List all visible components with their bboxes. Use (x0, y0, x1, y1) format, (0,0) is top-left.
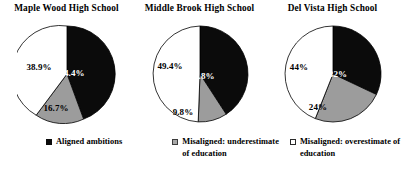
pie-value-overestimate: 49.4% (157, 61, 182, 71)
pie-chart-middle-brook: 40.8% 9.8% 49.4% (133, 24, 266, 126)
pie-panel-middle-brook: Middle Brook High School 40.8% 9.8% 49.4… (133, 0, 266, 132)
pie-panel-maple-wood: Maple Wood High School 44.4% 16.7% 38.9% (0, 0, 133, 132)
panel-title: Del Vista High School (266, 3, 399, 14)
legend-swatch-black-icon (46, 139, 52, 145)
pie-panel-del-vista: Del Vista High School 32% 24% 44% (266, 0, 399, 132)
pie-value-aligned: 44.4% (59, 68, 84, 78)
legend-item-label: Misaligned: overestimate of education (300, 136, 404, 159)
legend-swatch-white-icon (290, 139, 296, 145)
pie-chart-maple-wood: 44.4% 16.7% 38.9% (0, 24, 133, 126)
pie-value-underestimate: 24% (309, 102, 327, 112)
pie-value-aligned: 32% (329, 69, 347, 79)
legend-item-misaligned-underestimate[interactable]: Misaligned: underestimate of education (165, 136, 283, 178)
panel-title: Middle Brook High School (133, 3, 266, 14)
panel-title: Maple Wood High School (0, 3, 133, 14)
pie-value-underestimate: 16.7% (43, 103, 68, 113)
pie-chart-figure: Maple Wood High School 44.4% 16.7% 38.9%… (0, 0, 404, 178)
legend-item-label: Aligned ambitions (56, 136, 122, 148)
legend-item-misaligned-overestimate[interactable]: Misaligned: overestimate of education (283, 136, 404, 178)
legend-swatch-gray-icon (172, 139, 178, 145)
pie-chart-del-vista: 32% 24% 44% (266, 24, 399, 126)
pie-value-underestimate: 9.8% (173, 107, 194, 117)
pie-value-overestimate: 44% (290, 62, 308, 72)
pie-value-overestimate: 38.9% (26, 62, 51, 72)
legend-item-label: Misaligned: underestimate of education (182, 136, 283, 159)
pie-value-aligned: 40.8% (189, 71, 214, 81)
pie-panels-row: Maple Wood High School 44.4% 16.7% 38.9%… (0, 0, 404, 132)
chart-legend: Aligned ambitions Misaligned: underestim… (0, 136, 404, 178)
legend-item-aligned-ambitions[interactable]: Aligned ambitions (0, 136, 165, 178)
